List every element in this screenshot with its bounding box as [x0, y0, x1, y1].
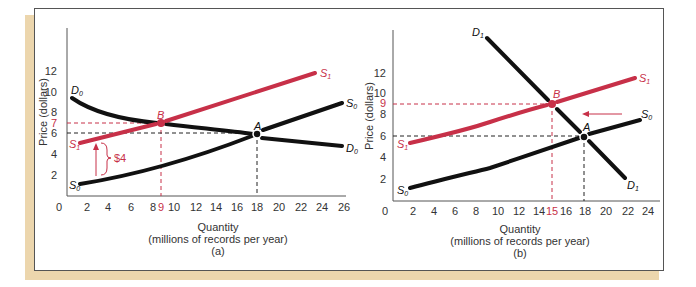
point-B-b [548, 100, 556, 108]
x-tick: 20 [600, 205, 612, 217]
x-tick-red: 15 [546, 205, 558, 217]
x-tick: 24 [316, 201, 328, 213]
x-tick: 12 [513, 205, 525, 217]
y-tick: 2 [380, 173, 386, 185]
x-tick: 8 [150, 201, 156, 213]
svg-text:Quantity: Quantity [198, 221, 239, 233]
arrow-head-icon [582, 111, 589, 117]
x-tick: 18 [251, 201, 263, 213]
x-tick: 8 [473, 205, 479, 217]
x-tick: 2 [84, 201, 90, 213]
x-tick: 6 [128, 201, 134, 213]
demand-curve-D0 [72, 98, 342, 146]
x-axis-label-b: Quantity (millions of records per year) … [450, 223, 589, 259]
label-D1-end: D1 [627, 179, 639, 192]
y-axis-label-b: Price (dollars) [363, 82, 375, 150]
svg-text:(millions of records per year): (millions of records per year) [450, 235, 589, 247]
shift-annotation-a: $4 [93, 143, 126, 176]
x-tick: 24 [642, 205, 654, 217]
chart-b: 12 10 9 8 6 4 2 Price (dollars) 0 2 4 6 … [363, 26, 660, 259]
x-tick: 12 [190, 201, 202, 213]
arrow-head-icon [93, 143, 99, 150]
x-tick: 4 [431, 205, 437, 217]
y-tick: 6 [51, 127, 57, 139]
x-tick: 10 [492, 205, 504, 217]
y-axis-label-a: Price (dollars) [37, 78, 49, 146]
shift-label: $4 [114, 152, 126, 164]
label-D0-end: D0 [346, 142, 358, 155]
y-tick: 2 [51, 169, 57, 181]
label-S0-start: S0 [397, 184, 408, 197]
x-tick: 6 [452, 205, 458, 217]
label-S1-start: S1 [69, 138, 80, 151]
svg-text:Quantity: Quantity [500, 223, 541, 235]
x-ticks-b: 0 2 4 6 8 10 12 14 15 16 18 20 22 24 [382, 205, 654, 217]
x-tick: 10 [168, 201, 180, 213]
x-tick: 16 [231, 201, 243, 213]
panel-label-a: (a) [211, 245, 224, 257]
x-tick-red: 9 [158, 201, 164, 213]
x-tick: 0 [382, 205, 388, 217]
label-S0-end: S0 [346, 97, 357, 110]
label-D0-start: D0 [71, 84, 83, 97]
y-tick: 8 [380, 108, 386, 120]
y-ticks-b: 12 10 9 8 6 4 2 [374, 67, 386, 185]
chart-a: 12 10 8 7 6 4 2 Price (dollars) 0 2 4 6 … [37, 28, 358, 257]
figure-plots: 12 10 8 7 6 4 2 Price (dollars) 0 2 4 6 … [0, 0, 696, 287]
x-tick: 2 [410, 205, 416, 217]
label-S1-end: S1 [639, 72, 650, 85]
label-S1-start: S1 [397, 138, 408, 151]
y-tick: 4 [380, 151, 386, 163]
x-tick: 16 [560, 205, 572, 217]
point-A-b [580, 133, 588, 141]
panel-label-b: (b) [513, 247, 526, 259]
supply-curve-S1 [410, 78, 635, 143]
label-B-b: B [553, 88, 560, 100]
x-tick: 4 [105, 201, 111, 213]
svg-text:(millions of records per year): (millions of records per year) [148, 233, 287, 245]
x-tick: 0 [56, 201, 62, 213]
supply-curve-S0 [410, 120, 640, 188]
brace-icon [101, 143, 111, 175]
label-A-a: A [253, 120, 261, 132]
x-ticks-a: 0 2 4 6 8 9 10 12 14 16 18 20 22 24 26 [56, 201, 350, 213]
label-D1-start: D1 [472, 26, 484, 39]
x-tick: 20 [273, 201, 285, 213]
label-B-a: B [157, 109, 164, 121]
x-tick: 14 [210, 201, 222, 213]
label-S1-end: S1 [320, 67, 331, 80]
label-A-b: A [582, 121, 590, 133]
demand-curve-D1 [487, 38, 625, 178]
x-tick: 14 [533, 205, 545, 217]
label-S0-end: S0 [641, 108, 652, 121]
x-tick: 22 [622, 205, 634, 217]
y-tick: 12 [45, 65, 57, 77]
y-tick: 12 [374, 67, 386, 79]
supply-curve-S1 [80, 73, 315, 143]
shift-arrow-b [582, 111, 622, 117]
x-tick: 26 [338, 201, 350, 213]
y-tick: 4 [51, 148, 57, 160]
label-S0-start: S0 [69, 179, 80, 192]
x-axis-label-a: Quantity (millions of records per year) … [148, 221, 287, 257]
x-tick: 22 [295, 201, 307, 213]
y-tick: 6 [380, 130, 386, 142]
x-tick: 18 [579, 205, 591, 217]
